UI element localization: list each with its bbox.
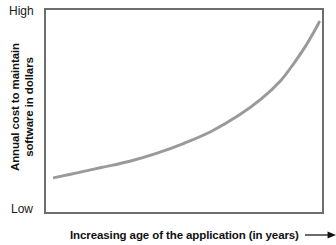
exponential-curve-svg: [46, 10, 322, 212]
plot-area: [44, 8, 324, 214]
right-arrow-icon: [305, 229, 336, 241]
y-axis-title-text: Annual cost to maintain software in doll…: [8, 43, 36, 171]
chart-figure: High Low Annual cost to maintain softwar…: [0, 0, 336, 245]
y-axis-low-label: Low: [11, 203, 33, 215]
y-axis-title-line-1: Annual cost to maintain: [8, 43, 22, 171]
cost-curve-path: [54, 22, 319, 178]
y-axis-title: Annual cost to maintain software in doll…: [0, 0, 44, 214]
x-axis-title-text: Increasing age of the application (in ye…: [44, 229, 299, 241]
y-axis-title-line-2: software in dollars: [22, 43, 36, 171]
y-axis-high-label: High: [9, 5, 34, 17]
x-axis-title: Increasing age of the application (in ye…: [44, 224, 336, 245]
